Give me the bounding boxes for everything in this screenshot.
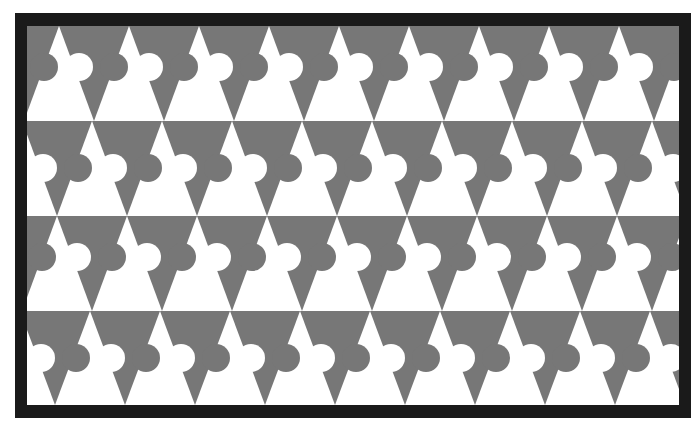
- lobe-circle: [343, 243, 371, 271]
- notch-circle: [519, 154, 547, 182]
- notch-circle: [447, 344, 475, 372]
- lobe-circle: [133, 243, 161, 271]
- notch-circle: [28, 243, 56, 271]
- notch-circle: [378, 243, 406, 271]
- notch-circle: [307, 344, 335, 372]
- lobe-circle: [202, 344, 230, 372]
- lobe-circle: [135, 53, 163, 81]
- notch-circle: [587, 344, 615, 372]
- tessellation-artwork: [27, 26, 679, 405]
- notch-circle: [590, 53, 618, 81]
- notch-circle: [27, 344, 55, 372]
- lobe-circle: [413, 243, 441, 271]
- lobe-circle: [275, 53, 303, 81]
- lobe-circle: [272, 344, 300, 372]
- notch-circle: [239, 154, 267, 182]
- notch-circle: [238, 243, 266, 271]
- tessellation-row-4: [27, 311, 679, 405]
- notch-circle: [170, 53, 198, 81]
- notch-circle: [167, 344, 195, 372]
- lobe-circle: [204, 154, 232, 182]
- lobe-circle: [63, 243, 91, 271]
- notch-circle: [377, 344, 405, 372]
- lobe-circle: [132, 344, 160, 372]
- lobe-circle: [64, 154, 92, 182]
- notch-circle: [168, 243, 196, 271]
- lobe-circle: [484, 154, 512, 182]
- notch-circle: [97, 344, 125, 372]
- lobe-circle: [65, 53, 93, 81]
- lobe-circle: [412, 344, 440, 372]
- notch-circle: [309, 154, 337, 182]
- lobe-circle: [553, 243, 581, 271]
- lobe-circle: [414, 154, 442, 182]
- lobe-circle: [415, 53, 443, 81]
- lobe-circle: [134, 154, 162, 182]
- lobe-circle: [554, 154, 582, 182]
- lobe-circle: [344, 154, 372, 182]
- tessellation-row-1: [27, 26, 679, 121]
- notch-circle: [29, 154, 57, 182]
- notch-circle: [308, 243, 336, 271]
- lobe-circle: [62, 344, 90, 372]
- lobe-circle: [485, 53, 513, 81]
- notch-circle: [518, 243, 546, 271]
- lobe-circle: [342, 344, 370, 372]
- notch-circle: [517, 344, 545, 372]
- lobe-circle: [274, 154, 302, 182]
- lobe-circle: [555, 53, 583, 81]
- notch-circle: [99, 154, 127, 182]
- notch-circle: [448, 243, 476, 271]
- notch-circle: [237, 344, 265, 372]
- lobe-circle: [623, 243, 651, 271]
- lobe-circle: [625, 53, 653, 81]
- lobe-circle: [622, 344, 650, 372]
- notch-circle: [30, 53, 58, 81]
- notch-circle: [100, 53, 128, 81]
- notch-circle: [169, 154, 197, 182]
- lobe-circle: [345, 53, 373, 81]
- lobe-circle: [482, 344, 510, 372]
- lobe-circle: [273, 243, 301, 271]
- notch-circle: [380, 53, 408, 81]
- notch-circle: [520, 53, 548, 81]
- notch-circle: [240, 53, 268, 81]
- tessellation-row-2: [27, 121, 679, 216]
- lobe-circle: [205, 53, 233, 81]
- notch-circle: [310, 53, 338, 81]
- notch-circle: [379, 154, 407, 182]
- lobe-circle: [483, 243, 511, 271]
- notch-circle: [449, 154, 477, 182]
- notch-circle: [588, 243, 616, 271]
- notch-circle: [450, 53, 478, 81]
- notch-circle: [98, 243, 126, 271]
- lobe-circle: [552, 344, 580, 372]
- lobe-circle: [203, 243, 231, 271]
- notch-circle: [589, 154, 617, 182]
- tessellation-row-3: [27, 216, 679, 311]
- lobe-circle: [624, 154, 652, 182]
